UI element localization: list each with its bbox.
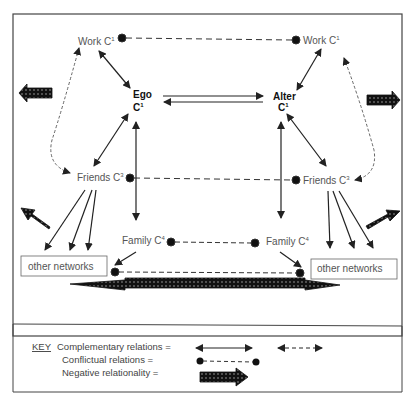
conflict-family [167,238,259,247]
complementary-dashed [51,48,375,180]
node-family-right: Family C4 [266,236,309,247]
node-friends-right: Friends C3 [303,175,350,186]
node-family-left: Family C4 [122,235,165,246]
node-friends-left: Friends C3 [77,172,124,183]
node-alter: Alter C1 [273,91,296,113]
svg-text:C1: C1 [278,102,289,113]
node-ego: Ego C1 [133,89,152,113]
svg-text:Ego: Ego [133,89,152,100]
complementary-relations [45,49,373,267]
node-other-networks-left: other networks [21,256,107,276]
svg-text:other networks: other networks [28,261,94,272]
svg-text:other networks: other networks [317,263,383,274]
conflict-other [111,268,304,277]
social-network-diagram: Work C1 Work C1 Ego C1 Alter C1 Friends … [0,0,415,405]
legend: KEY Complementary relations = Conflictua… [32,341,322,386]
svg-text:KEY: KEY [32,341,52,352]
svg-text:Work C1: Work C1 [78,36,115,47]
svg-text:Conflictual relations =: Conflictual relations = [62,354,154,365]
conflict-work [118,34,300,44]
node-work-left: Work C1 [78,36,115,47]
svg-text:Complementary relations =: Complementary relations = [57,341,171,352]
svg-text:Friends C3: Friends C3 [303,175,350,186]
node-work-right: Work C1 [303,35,340,46]
svg-text:Alter: Alter [273,91,296,102]
node-other-networks-right: other networks [311,259,397,279]
svg-text:Work C1: Work C1 [303,35,340,46]
svg-text:Family C4: Family C4 [266,236,309,247]
svg-text:Negative relationality =: Negative relationality = [62,367,159,378]
svg-text:Family C4: Family C4 [122,235,165,246]
svg-text:C1: C1 [133,102,144,113]
key-divider [13,324,402,326]
svg-text:Friends C3: Friends C3 [77,172,124,183]
conflict-friends [126,174,300,184]
